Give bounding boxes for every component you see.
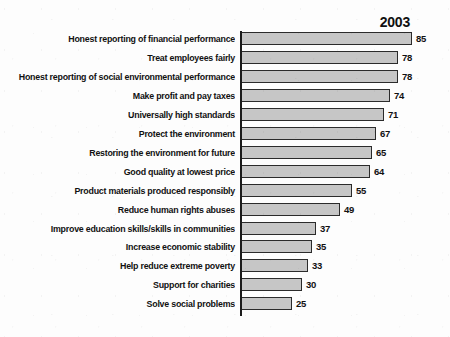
bar-category-label: Treat employees fairly: [0, 51, 235, 64]
plot-area: Honest reporting of financial performanc…: [0, 31, 450, 316]
bar-value-label: 25: [296, 297, 306, 310]
bar-category-label: Support for charities: [0, 278, 235, 291]
bar-row: Make profit and pay taxes74: [0, 88, 450, 107]
bar-category-label: Honest reporting of financial performanc…: [0, 32, 235, 45]
bar: [242, 51, 398, 64]
bar: [242, 32, 412, 45]
bar-row: Protect the environment67: [0, 126, 450, 145]
bar-row: Honest reporting of social environmental…: [0, 69, 450, 88]
bar-category-label: Protect the environment: [0, 127, 235, 140]
bar-value-label: 64: [374, 165, 384, 178]
bar: [242, 89, 390, 102]
bar-row: Increase economic stability35: [0, 239, 450, 258]
bar: [242, 297, 292, 310]
bar-value-label: 37: [320, 222, 330, 235]
bar-value-label: 78: [402, 51, 412, 64]
bar-value-label: 65: [376, 146, 386, 159]
bar: [242, 222, 316, 235]
bar-value-label: 30: [306, 278, 316, 291]
bar-value-label: 67: [380, 127, 390, 140]
bar-category-label: Good quality at lowest price: [0, 165, 235, 178]
bar-value-label: 55: [356, 184, 366, 197]
bar-value-label: 78: [402, 70, 412, 83]
bar: [242, 240, 312, 253]
bar-value-label: 85: [416, 32, 426, 45]
bar-row: Reduce human rights abuses49: [0, 202, 450, 221]
bar-row: Help reduce extreme poverty33: [0, 258, 450, 277]
bar: [242, 259, 308, 272]
bar-value-label: 71: [388, 108, 398, 121]
bar-category-label: Product materials produced responsibly: [0, 184, 235, 197]
bar-category-label: Solve social problems: [0, 297, 235, 310]
bar-category-label: Universally high standards: [0, 108, 235, 121]
bar-category-label: Help reduce extreme poverty: [0, 259, 235, 272]
bar: [242, 146, 372, 159]
bar: [242, 184, 352, 197]
bar: [242, 278, 302, 291]
chart-title: 2003: [300, 14, 410, 30]
bar: [242, 70, 398, 83]
bar-value-label: 35: [316, 240, 326, 253]
bar-row: Improve education skills/skills in commu…: [0, 221, 450, 240]
bar: [242, 203, 340, 216]
bar-value-label: 74: [394, 89, 404, 102]
bar-row: Treat employees fairly78: [0, 50, 450, 69]
bar: [242, 108, 384, 121]
bar: [242, 165, 370, 178]
bar-category-label: Improve education skills/skills in commu…: [0, 222, 235, 235]
bar-category-label: Reduce human rights abuses: [0, 203, 235, 216]
bar-row: Product materials produced responsibly55: [0, 183, 450, 202]
bar-row: Solve social problems25: [0, 296, 450, 315]
bar-chart: 2003 Honest reporting of financial perfo…: [0, 0, 450, 337]
bar-row: Support for charities30: [0, 277, 450, 296]
bar: [242, 127, 376, 140]
bar-row: Honest reporting of financial performanc…: [0, 31, 450, 50]
bar-category-label: Increase economic stability: [0, 240, 235, 253]
bar-value-label: 49: [344, 203, 354, 216]
bar-category-label: Honest reporting of social environmental…: [0, 70, 235, 83]
bar-value-label: 33: [312, 259, 322, 272]
bar-row: Good quality at lowest price64: [0, 164, 450, 183]
bar-category-label: Make profit and pay taxes: [0, 89, 235, 102]
bar-row: Restoring the environment for future65: [0, 145, 450, 164]
bar-category-label: Restoring the environment for future: [0, 146, 235, 159]
bar-row: Universally high standards71: [0, 107, 450, 126]
